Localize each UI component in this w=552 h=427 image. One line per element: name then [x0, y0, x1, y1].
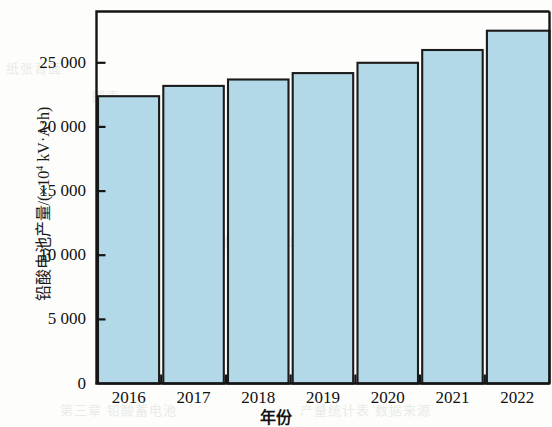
x-tick-label-2021: 2021 [420, 389, 485, 406]
bar-2020 [358, 63, 419, 384]
y-tick-label: 10 000 [0, 246, 86, 263]
x-tick-label-2016: 2016 [97, 389, 162, 406]
bar-2016 [98, 96, 159, 383]
bar-2022 [487, 31, 550, 384]
x-tick-label-2020: 2020 [355, 389, 420, 406]
bar-2021 [422, 50, 483, 384]
bar-2017 [163, 86, 224, 384]
x-tick-label-2022: 2022 [485, 389, 550, 406]
x-tick-label-2018: 2018 [226, 389, 291, 406]
bar-chart-figure: 纸张背面 图表 铅酸蓄电池 年度产量 附录 第三章 铅酸蓄电池 产量统计表 数据… [0, 0, 552, 427]
bar-2019 [293, 73, 354, 383]
x-tick-label-2017: 2017 [161, 389, 226, 406]
y-tick-label: 20 000 [0, 118, 86, 135]
y-tick-label: 5 000 [0, 310, 86, 327]
bar-2018 [228, 80, 289, 384]
x-tick-label-2019: 2019 [291, 389, 356, 406]
y-tick-label: 15 000 [0, 182, 86, 199]
y-tick-label: 25 000 [0, 54, 86, 71]
y-tick-label: 0 [0, 375, 86, 392]
